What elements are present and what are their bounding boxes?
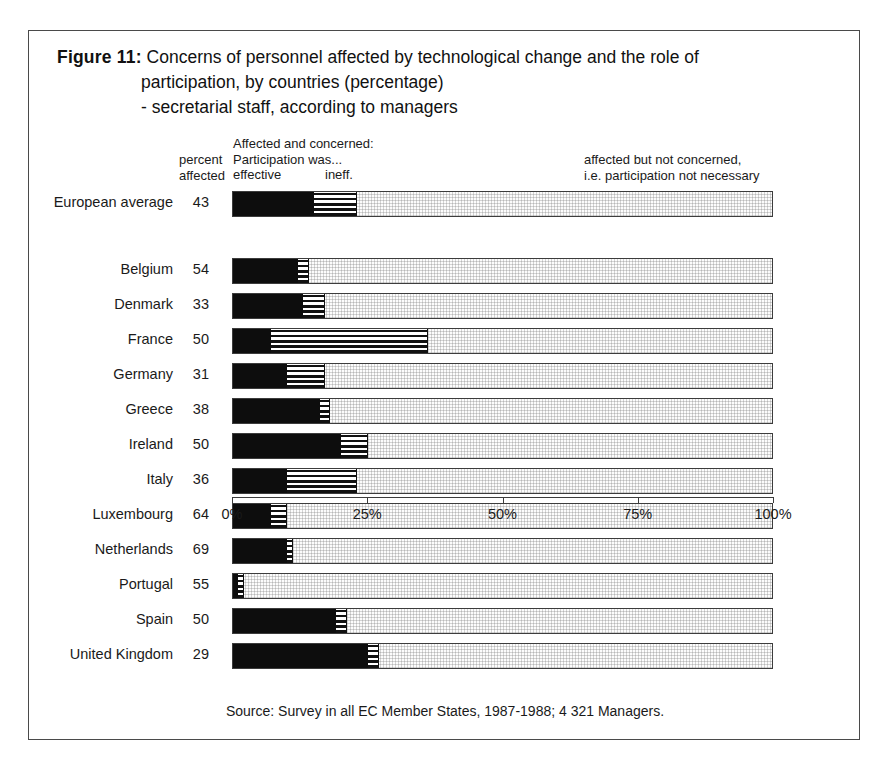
bar-segment-ineffective <box>320 399 331 423</box>
x-axis-tick-label: 0% <box>222 506 243 522</box>
bar-row-percent-affected: 38 <box>181 401 209 417</box>
bar-row-label: Ireland <box>29 436 173 452</box>
bar-segment-ineffective <box>287 539 292 563</box>
bar-row: Spain50 <box>29 608 861 634</box>
chart-plot-area: European average43Belgium54Denmark33Fran… <box>29 191 861 671</box>
bar-segment-ineffective <box>314 192 357 216</box>
x-axis-tick-label: 25% <box>353 506 382 522</box>
bar-track <box>232 468 773 494</box>
figure-frame: Figure 11: Concerns of personnel affecte… <box>28 30 860 740</box>
bar-row-percent-affected: 55 <box>181 576 209 592</box>
bar-row-label: Denmark <box>29 296 173 312</box>
bar-track <box>232 258 773 284</box>
bar-track <box>232 433 773 459</box>
figure-title-line-1: Concerns of personnel affected by techno… <box>147 47 699 67</box>
bar-row: Greece38 <box>29 398 861 424</box>
bar-track <box>232 573 773 599</box>
bar-row: Denmark33 <box>29 293 861 319</box>
chart-legend: percent affected Affected and concerned:… <box>29 131 859 187</box>
bar-segment-ineffective <box>368 644 379 668</box>
bar-row: United Kingdom29 <box>29 643 861 669</box>
bar-row-percent-affected: 33 <box>181 296 209 312</box>
x-axis-tick <box>773 497 774 503</box>
page-title: Figure 11: Concerns of personnel affecte… <box>57 45 837 120</box>
bar-row-percent-affected: 69 <box>181 541 209 557</box>
bar-row-percent-affected: 50 <box>181 331 209 347</box>
bar-track <box>232 608 773 634</box>
bar-row-label: Germany <box>29 366 173 382</box>
legend-participation-was: Participation was... <box>233 152 563 168</box>
bar-segment-ineffective <box>287 469 357 493</box>
legend-not-concerned-line-2: i.e. participation not necessary <box>584 168 854 184</box>
bar-track <box>232 191 773 217</box>
bar-row: Ireland50 <box>29 433 861 459</box>
bar-row-percent-affected: 54 <box>181 261 209 277</box>
bar-segment-ineffective <box>336 609 347 633</box>
x-axis: 0%25%50%75%100% <box>232 497 773 535</box>
bar-row-label: European average <box>29 194 173 210</box>
bar-segment-effective <box>233 294 303 318</box>
source-note: Source: Survey in all EC Member States, … <box>29 703 861 719</box>
legend-percent-line-1: percent <box>179 152 241 168</box>
x-axis-tick-label: 100% <box>754 506 791 522</box>
bar-segment-effective <box>233 539 287 563</box>
bar-row-label: Portugal <box>29 576 173 592</box>
bar-row: Belgium54 <box>29 258 861 284</box>
bar-row-percent-affected: 36 <box>181 471 209 487</box>
bar-segment-effective <box>233 364 287 388</box>
bar-row-label: Spain <box>29 611 173 627</box>
legend-not-concerned-line-1: affected but not concerned, <box>584 152 854 168</box>
legend-percent-affected: percent affected <box>179 152 241 183</box>
legend-percent-line-2: affected <box>179 168 241 184</box>
bar-segment-ineffective <box>238 574 243 598</box>
bar-segment-effective <box>233 192 314 216</box>
legend-effective: effective <box>233 167 325 183</box>
bar-row: Netherlands69 <box>29 538 861 564</box>
bar-row-percent-affected: 50 <box>181 611 209 627</box>
bar-track <box>232 538 773 564</box>
bar-row-label: United Kingdom <box>29 646 173 662</box>
bar-row-label: Greece <box>29 401 173 417</box>
figure-title-line-3: - secretarial staff, according to manage… <box>57 95 837 120</box>
bar-segment-ineffective <box>341 434 368 458</box>
bar-segment-ineffective <box>287 364 325 388</box>
bar-row-label: France <box>29 331 173 347</box>
bar-segment-ineffective <box>298 259 309 283</box>
bar-track <box>232 643 773 669</box>
bar-row-label: Luxembourg <box>29 506 173 522</box>
bar-row-percent-affected: 31 <box>181 366 209 382</box>
bar-row-percent-affected: 50 <box>181 436 209 452</box>
bar-row-label: Italy <box>29 471 173 487</box>
bar-segment-effective <box>233 259 298 283</box>
x-axis-tick <box>367 497 368 503</box>
bar-track <box>232 363 773 389</box>
bar-row-percent-affected: 29 <box>181 646 209 662</box>
bar-track <box>232 398 773 424</box>
legend-affected-concerned: Affected and concerned: <box>233 136 563 152</box>
x-axis-tick <box>232 497 233 503</box>
x-axis-tick <box>638 497 639 503</box>
bar-segment-effective <box>233 609 336 633</box>
legend-not-concerned-group: affected but not concerned, i.e. partici… <box>584 152 854 183</box>
bar-segment-effective <box>233 434 341 458</box>
bar-track <box>232 293 773 319</box>
bar-segment-effective <box>233 329 271 353</box>
bar-row: Italy36 <box>29 468 861 494</box>
bar-row-percent-affected: 43 <box>181 194 209 210</box>
bar-segment-ineffective <box>271 329 428 353</box>
legend-ineffective: ineff. <box>325 167 353 182</box>
bar-track <box>232 328 773 354</box>
bar-row: France50 <box>29 328 861 354</box>
bar-row: European average43 <box>29 191 861 217</box>
bar-row: Germany31 <box>29 363 861 389</box>
bar-row-label: Netherlands <box>29 541 173 557</box>
bar-row: Portugal55 <box>29 573 861 599</box>
x-axis-tick <box>503 497 504 503</box>
x-axis-tick-label: 75% <box>623 506 652 522</box>
bar-row-label: Belgium <box>29 261 173 277</box>
bar-segment-effective <box>233 469 287 493</box>
legend-concerned-group: Affected and concerned: Participation wa… <box>233 136 563 183</box>
bar-row-percent-affected: 64 <box>181 506 209 522</box>
bar-segment-effective <box>233 644 368 668</box>
bar-segment-ineffective <box>303 294 325 318</box>
